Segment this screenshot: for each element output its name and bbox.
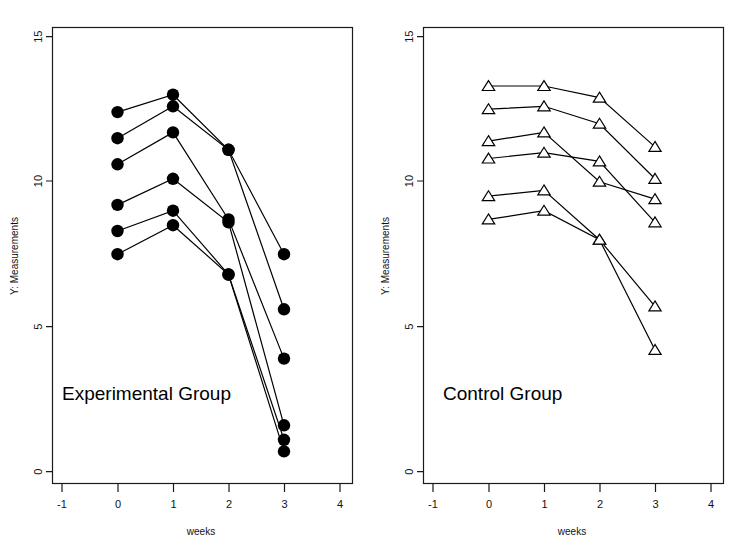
data-point-dot bbox=[222, 268, 234, 280]
panel-background bbox=[371, 0, 742, 552]
panel-control-group: 15 10 5 0 Y: Measurements -1 0 1 2 3 4 w… bbox=[371, 0, 742, 552]
data-point-dot bbox=[111, 199, 123, 211]
x-axis-title: weeks bbox=[557, 526, 586, 537]
x-tick-label-neg1: -1 bbox=[428, 498, 438, 510]
group-annotation-control: Control Group bbox=[443, 383, 562, 404]
x-tick-label-3: 3 bbox=[652, 498, 658, 510]
panel-experimental-group: 15 10 5 0 Y: Measurements -1 0 1 2 3 4 w… bbox=[0, 0, 371, 552]
data-point-dot bbox=[278, 445, 290, 457]
x-tick-label-4: 4 bbox=[337, 498, 343, 510]
y-tick-label-5: 5 bbox=[32, 324, 44, 330]
data-point-dot bbox=[222, 144, 234, 156]
x-axis-title: weeks bbox=[186, 526, 215, 537]
y-tick-label-15: 15 bbox=[403, 31, 415, 43]
data-point-dot bbox=[278, 248, 290, 260]
y-tick-label-0: 0 bbox=[32, 469, 44, 475]
x-tick-label-3: 3 bbox=[281, 498, 287, 510]
data-point-dot bbox=[111, 158, 123, 170]
y-axis-title: Y: Measurements bbox=[9, 217, 20, 295]
y-tick-label-5: 5 bbox=[403, 324, 415, 330]
data-point-dot bbox=[111, 225, 123, 237]
x-tick-label-2: 2 bbox=[597, 498, 603, 510]
data-point-dot bbox=[111, 132, 123, 144]
y-tick-label-0: 0 bbox=[403, 469, 415, 475]
two-panel-figure: 15 10 5 0 Y: Measurements -1 0 1 2 3 4 w… bbox=[0, 0, 742, 552]
x-tick-label-0: 0 bbox=[115, 498, 121, 510]
data-point-dot bbox=[278, 303, 290, 315]
data-point-dot bbox=[278, 352, 290, 364]
data-point-dot bbox=[111, 248, 123, 260]
y-tick-label-10: 10 bbox=[403, 175, 415, 187]
data-point-dot bbox=[167, 89, 179, 101]
data-point-dot bbox=[167, 126, 179, 138]
x-tick-label-2: 2 bbox=[226, 498, 232, 510]
x-tick-label-1: 1 bbox=[170, 498, 176, 510]
x-tick-label-4: 4 bbox=[708, 498, 714, 510]
data-point-dot bbox=[222, 216, 234, 228]
data-point-dot bbox=[278, 434, 290, 446]
experimental-group-plot: 15 10 5 0 Y: Measurements -1 0 1 2 3 4 w… bbox=[0, 0, 371, 552]
data-point-dot bbox=[278, 419, 290, 431]
data-point-dot bbox=[167, 100, 179, 112]
group-annotation-experimental: Experimental Group bbox=[62, 383, 231, 404]
x-tick-label-1: 1 bbox=[541, 498, 547, 510]
y-tick-label-10: 10 bbox=[32, 175, 44, 187]
data-point-dot bbox=[167, 205, 179, 217]
x-tick-label-neg1: -1 bbox=[57, 498, 67, 510]
y-axis-title: Y: Measurements bbox=[380, 217, 391, 295]
control-group-plot: 15 10 5 0 Y: Measurements -1 0 1 2 3 4 w… bbox=[371, 0, 742, 552]
data-point-dot bbox=[167, 173, 179, 185]
y-tick-label-15: 15 bbox=[32, 31, 44, 43]
x-tick-label-0: 0 bbox=[486, 498, 492, 510]
data-point-dot bbox=[167, 219, 179, 231]
panel-background bbox=[0, 0, 371, 552]
data-point-dot bbox=[111, 106, 123, 118]
